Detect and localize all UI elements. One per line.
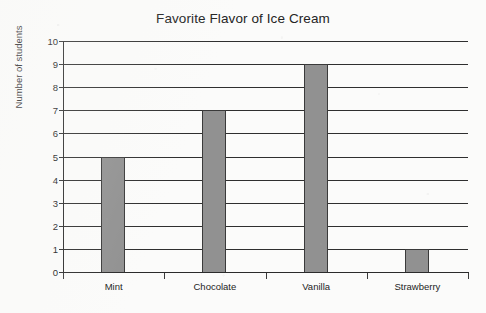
x-axis-tick-mark xyxy=(367,273,368,279)
x-axis-tick-mark xyxy=(266,273,267,279)
y-axis-tick-label: 2 xyxy=(36,220,58,231)
gridline xyxy=(63,110,468,111)
x-axis-tick-mark xyxy=(468,273,469,279)
y-axis-tick-label: 5 xyxy=(36,151,58,162)
plot-area xyxy=(63,41,468,272)
y-axis-tick-label: 0 xyxy=(36,267,58,278)
gridline xyxy=(63,64,468,65)
gridline xyxy=(63,87,468,88)
y-axis-tick-label: 3 xyxy=(36,197,58,208)
chart-title: Favorite Flavor of Ice Cream xyxy=(0,11,486,26)
x-axis-category-label: Strawberry xyxy=(394,281,440,292)
bar xyxy=(202,110,226,273)
gridline xyxy=(63,133,468,134)
bar-chart-figure: Favorite Flavor of Ice Cream Number of s… xyxy=(0,0,486,313)
y-axis-tick-label: 4 xyxy=(36,174,58,185)
gridline xyxy=(63,41,468,42)
x-axis-category-label: Mint xyxy=(105,281,123,292)
x-axis-category-label: Chocolate xyxy=(193,281,236,292)
y-axis-tick-label: 7 xyxy=(36,105,58,116)
y-axis-line xyxy=(63,41,64,273)
x-axis-tick-mark xyxy=(63,273,64,279)
bar xyxy=(304,64,328,273)
y-axis-tick-label: 8 xyxy=(36,82,58,93)
x-axis-tick-mark xyxy=(164,273,165,279)
y-axis-tick-label: 9 xyxy=(36,59,58,70)
bar xyxy=(405,249,429,273)
x-axis-category-label: Vanilla xyxy=(302,281,330,292)
bar xyxy=(101,157,125,274)
y-axis-tick-label: 1 xyxy=(36,243,58,254)
y-axis-tick-label: 10 xyxy=(36,36,58,47)
y-axis-tick-label: 6 xyxy=(36,128,58,139)
y-axis-title: Number of students xyxy=(13,2,24,132)
